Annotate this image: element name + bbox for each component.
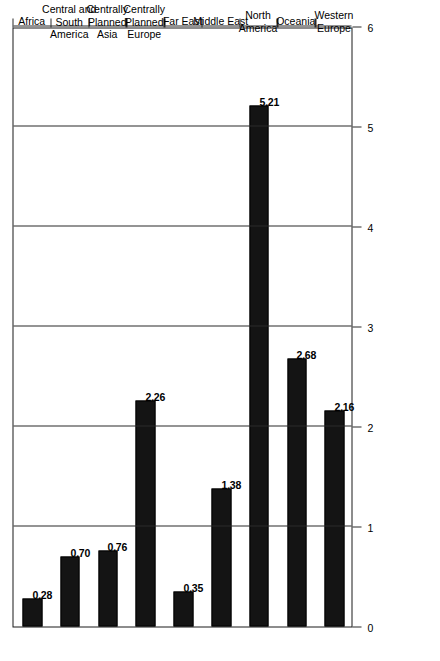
category-label-text: Africa xyxy=(17,15,44,28)
gridline xyxy=(13,125,351,126)
category-label-line: Planned xyxy=(86,15,127,28)
category-axis-tick xyxy=(12,18,13,27)
category-label-text: NorthAmerica xyxy=(238,9,277,34)
value-axis-tick-label: 3 xyxy=(367,321,373,333)
bar-chart: 0.280.700.762.260.351.385.212.682.16 012… xyxy=(0,0,440,661)
gridline xyxy=(13,425,351,426)
bar-row: 5.21 xyxy=(249,28,269,626)
gridline xyxy=(13,525,351,526)
chart-page: 0.280.700.762.260.351.385.212.682.16 012… xyxy=(0,0,440,661)
category-label-text: WesternEurope xyxy=(314,9,353,34)
value-axis: 0123456 xyxy=(352,27,392,627)
bar-value-label: 2.26 xyxy=(145,390,165,402)
bar xyxy=(98,550,118,626)
bar-row: 2.26 xyxy=(135,28,155,626)
bar-row: 1.38 xyxy=(211,28,231,626)
value-axis-tick xyxy=(352,226,361,227)
value-axis-tick-label: 5 xyxy=(367,121,373,133)
value-axis-tick-label: 4 xyxy=(367,221,373,233)
bar-row: 0.70 xyxy=(60,28,80,626)
value-axis-tick xyxy=(352,626,361,627)
category-label-line: North xyxy=(238,9,277,22)
category-label-text: CentrallyPlannedAsia xyxy=(86,2,127,40)
category-label-line: Oceania xyxy=(276,15,315,28)
bar xyxy=(211,488,231,626)
category-label-line: Europe xyxy=(124,27,165,40)
category-axis: AfricaCentral andSouthAmericaCentrallyPl… xyxy=(12,0,352,27)
value-axis-tick-label: 6 xyxy=(367,21,373,33)
bar-row: 2.16 xyxy=(324,28,344,626)
bar-value-label: 2.68 xyxy=(296,348,316,360)
value-axis-tick-label: 1 xyxy=(367,521,373,533)
category-label-line: Europe xyxy=(314,21,353,34)
bar-value-label: 2.16 xyxy=(334,400,354,412)
category-label-line: America xyxy=(238,21,277,34)
bar-row: 0.28 xyxy=(22,28,42,626)
bar xyxy=(22,598,42,626)
category-label-text: CentrallyPlannedEurope xyxy=(124,2,165,40)
gridline xyxy=(13,225,351,226)
bar xyxy=(173,591,193,626)
category-label-line: Asia xyxy=(86,27,127,40)
category-label-line: Africa xyxy=(17,15,44,28)
value-axis-tick xyxy=(352,526,361,527)
bar-row: 0.35 xyxy=(173,28,193,626)
rotated-chart-container: 0.280.700.762.260.351.385.212.682.16 012… xyxy=(0,0,440,661)
bar-value-label: 5.21 xyxy=(259,95,279,107)
bars-group: 0.280.700.762.260.351.385.212.682.16 xyxy=(13,28,351,626)
bar-row: 2.68 xyxy=(287,28,307,626)
bar xyxy=(287,358,307,626)
bar-value-label: 0.76 xyxy=(107,540,127,552)
bar xyxy=(135,400,155,626)
gridline xyxy=(13,325,351,326)
category-label-line: Planned xyxy=(124,15,165,28)
category-label-line: Western xyxy=(314,9,353,22)
value-axis-tick xyxy=(352,326,361,327)
value-axis-tick xyxy=(352,426,361,427)
bar-row: 0.76 xyxy=(98,28,118,626)
bar xyxy=(324,410,344,626)
bar-value-label: 1.38 xyxy=(221,478,241,490)
value-axis-tick-label: 2 xyxy=(367,421,373,433)
bar xyxy=(60,556,80,626)
bar-value-label: 0.35 xyxy=(183,581,203,593)
category-label-line: Centrally xyxy=(124,2,165,15)
bar-value-label: 0.28 xyxy=(32,588,52,600)
plot-area: 0.280.700.762.260.351.385.212.682.16 xyxy=(12,27,352,627)
value-axis-tick xyxy=(352,126,361,127)
bar-value-label: 0.70 xyxy=(70,546,90,558)
bar xyxy=(249,105,269,626)
value-axis-tick-label: 0 xyxy=(367,621,373,633)
category-label-line: Centrally xyxy=(86,2,127,15)
category-label-text: Oceania xyxy=(276,15,315,28)
